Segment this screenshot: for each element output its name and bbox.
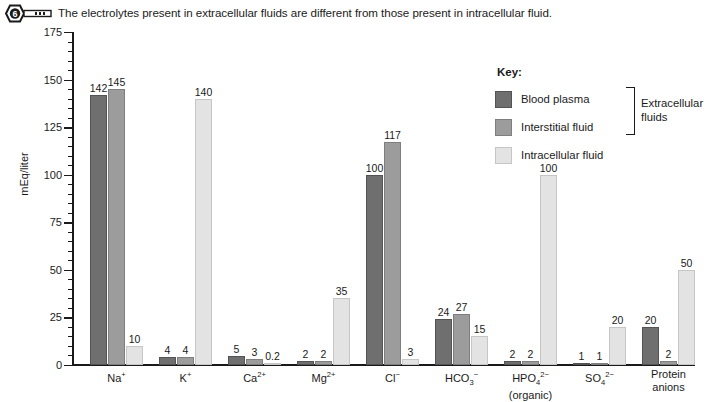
bar-slot: 0.2 (264, 32, 281, 365)
y-tick-label: 125 (22, 121, 62, 133)
bar-group-bars: 44140 (159, 32, 212, 365)
bar-value-label: 27 (456, 302, 468, 313)
bar-slot: 145 (108, 32, 125, 365)
extracellular-bracket (626, 87, 635, 135)
bar-value-label: 100 (366, 163, 384, 174)
bar-slot: 10 (126, 32, 143, 365)
bar-group-bars: 1001173 (366, 32, 419, 365)
legend-title: Key: (497, 66, 695, 78)
bar-value-label: 2 (528, 349, 534, 360)
bar[interactable] (228, 356, 245, 366)
extracellular-bracket-label: Extracellularfluids (641, 96, 703, 124)
bar-value-label: 1 (597, 351, 603, 362)
bar[interactable] (453, 314, 470, 365)
y-tick-label: 175 (22, 26, 62, 38)
y-tick-label: 25 (22, 311, 62, 323)
bar-slot: 5 (228, 32, 245, 365)
bar[interactable] (402, 359, 419, 365)
bar-value-label: 2 (303, 349, 309, 360)
bar-slot: 140 (195, 32, 212, 365)
bar[interactable] (177, 357, 194, 365)
bar[interactable] (159, 357, 176, 365)
bar[interactable] (435, 319, 452, 365)
bar-value-label: 1 (579, 351, 585, 362)
bar-value-label: 4 (183, 345, 189, 356)
bar-slot: 15 (471, 32, 488, 365)
y-tick-label: 100 (22, 169, 62, 181)
bar-slot: 117 (384, 32, 401, 365)
bar-value-label: 24 (438, 307, 450, 318)
bar-value-label: 20 (612, 315, 624, 326)
bar-slot: 100 (366, 32, 383, 365)
bar[interactable] (315, 361, 332, 365)
bar[interactable] (504, 361, 521, 365)
y-tick-label: 0 (22, 359, 62, 371)
bar-slot: 2 (297, 32, 314, 365)
figure-caption-row: 6 The electrolytes present in extracellu… (0, 0, 701, 28)
bar-value-label: 2 (666, 349, 672, 360)
bar[interactable] (642, 327, 659, 365)
bar-group-bars: 242715 (435, 32, 488, 365)
key-icon: 6 (4, 3, 54, 24)
bar-value-label: 3 (252, 347, 258, 358)
bar-value-label: 0.2 (265, 351, 280, 362)
bar[interactable] (609, 327, 626, 365)
y-tick-major (64, 365, 73, 366)
bar[interactable] (384, 142, 401, 365)
bar[interactable] (90, 95, 107, 365)
bar-slot: 3 (246, 32, 263, 365)
bar[interactable] (126, 346, 143, 365)
bar-value-label: 2 (321, 349, 327, 360)
legend-label-blood-plasma: Blood plasma (521, 93, 589, 105)
legend-label-intracellular-fluid: Intracellular fluid (521, 149, 603, 161)
bar-slot: 4 (159, 32, 176, 365)
bar-value-label: 2 (510, 349, 516, 360)
bar[interactable] (522, 361, 539, 365)
bar-slot: 27 (453, 32, 470, 365)
svg-text:6: 6 (12, 9, 17, 19)
y-tick-label: 75 (22, 216, 62, 228)
bar[interactable] (297, 361, 314, 365)
bar-group-bars: 14214510 (90, 32, 143, 365)
bar[interactable] (660, 361, 677, 365)
bar-value-label: 145 (108, 77, 126, 88)
bar-value-label: 142 (90, 83, 108, 94)
bar-group-bars: 530.2 (228, 32, 281, 365)
bar-value-label: 50 (681, 258, 693, 269)
legend-swatch-blood-plasma (495, 91, 512, 108)
bar[interactable] (471, 336, 488, 365)
bar-value-label: 3 (408, 347, 414, 358)
bar-group-bars: 2235 (297, 32, 350, 365)
bar-slot: 35 (333, 32, 350, 365)
caption-text: The electrolytes present in extracellula… (58, 4, 552, 21)
bar-slot: 24 (435, 32, 452, 365)
bar-value-label: 5 (234, 344, 240, 355)
bar-value-label: 15 (474, 324, 486, 335)
bar-slot: 2 (315, 32, 332, 365)
legend: Key: Blood plasma Interstitial fluid Int… (495, 66, 695, 171)
bar-value-label: 20 (645, 315, 657, 326)
bar-value-label: 140 (195, 87, 213, 98)
bar[interactable] (108, 89, 125, 365)
bar[interactable] (333, 298, 350, 365)
bar[interactable] (195, 99, 212, 365)
legend-swatch-interstitial-fluid (495, 119, 512, 136)
bar[interactable] (591, 363, 608, 365)
bar[interactable] (678, 270, 695, 365)
bar[interactable] (540, 175, 557, 365)
bar[interactable] (573, 363, 590, 365)
bar[interactable] (246, 359, 263, 365)
legend-label-interstitial-fluid: Interstitial fluid (521, 121, 593, 133)
bar-value-label: 117 (384, 130, 401, 141)
bar-chart: mEq/liter 0255075100125150175 1421451044… (0, 28, 701, 400)
bar-value-label: 10 (129, 334, 141, 345)
bar-slot: 3 (402, 32, 419, 365)
bar[interactable] (264, 363, 281, 365)
x-axis-label: Proteinanions (624, 368, 708, 394)
legend-swatch-intracellular-fluid (495, 147, 512, 164)
bar-slot: 4 (177, 32, 194, 365)
legend-item-intracellular-fluid[interactable]: Intracellular fluid (495, 143, 695, 167)
bar[interactable] (366, 175, 383, 365)
bar-value-label: 35 (336, 286, 348, 297)
bar-slot: 142 (90, 32, 107, 365)
